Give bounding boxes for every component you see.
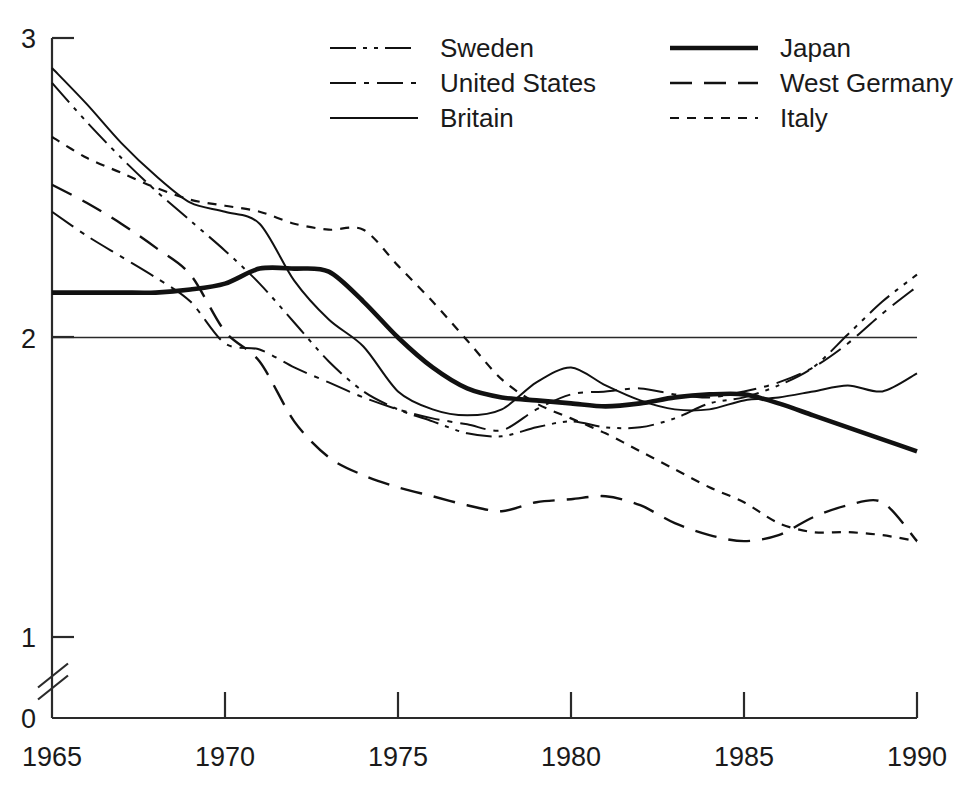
legend-item-sweden[interactable]: Sweden [330,33,534,63]
chart-container: 0123196519701975198019851990 SwedenUnite… [0,0,954,799]
axes [38,38,917,718]
x-tick-label-1970: 1970 [195,742,255,772]
y-tick-label-3: 3 [21,24,36,54]
chart-legend: SwedenUnited StatesBritainJapanWest Germ… [330,33,953,133]
legend-item-italy[interactable]: Italy [670,103,828,133]
y-tick-label-1: 1 [21,623,36,653]
y-tick-label-0: 0 [21,704,36,734]
legend-label-sweden: Sweden [440,33,534,63]
series-line-italy [52,137,917,541]
line-chart: 0123196519701975198019851990 SwedenUnite… [0,0,954,799]
tick-labels: 0123196519701975198019851990 [21,24,947,772]
legend-label-west-germany: West Germany [780,68,953,98]
legend-label-japan: Japan [780,33,851,63]
legend-item-britain[interactable]: Britain [330,103,514,133]
x-tick-label-1975: 1975 [368,742,428,772]
y-tick-label-2: 2 [21,324,36,354]
x-tick-label-1965: 1965 [22,742,82,772]
legend-item-west-germany[interactable]: West Germany [670,68,953,98]
series-line-united-states [52,212,917,431]
legend-label-britain: Britain [440,103,514,133]
legend-label-united-states: United States [440,68,596,98]
legend-item-japan[interactable]: Japan [670,33,851,63]
series-line-west-germany [52,185,917,541]
series-line-sweden [52,83,917,437]
x-tick-label-1980: 1980 [541,742,601,772]
legend-item-united-states[interactable]: United States [330,68,596,98]
legend-label-italy: Italy [780,103,828,133]
x-tick-label-1985: 1985 [714,742,774,772]
x-tick-label-1990: 1990 [887,742,947,772]
series-lines [52,68,917,541]
